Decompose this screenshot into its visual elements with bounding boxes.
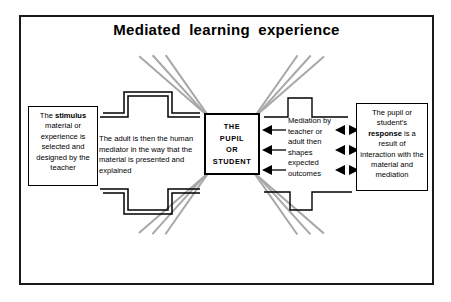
center-line-3: OR xyxy=(226,144,238,156)
center-line-2: PUPIL xyxy=(220,133,244,145)
center-line-4: STUDENT xyxy=(213,156,251,168)
stimulus-text: The stimulus material or experience is s… xyxy=(36,111,90,172)
page-title: Mediated learning experience xyxy=(19,21,434,38)
mediation-outcomes-text: Mediation by teacher or adult then shape… xyxy=(288,116,334,180)
diagram-canvas: Mediated learning experience xyxy=(0,0,451,302)
center-node-pupil-or-student: THE PUPIL OR STUDENT xyxy=(204,113,260,175)
response-box: The pupil or student’s response is a res… xyxy=(356,103,428,191)
adult-mediator-text: The adult is then the human mediator in … xyxy=(99,134,201,176)
center-line-1: THE xyxy=(224,121,240,133)
stimulus-box: The stimulus material or experience is s… xyxy=(28,106,98,186)
response-text: The pupil or student’s response is a res… xyxy=(360,108,423,179)
